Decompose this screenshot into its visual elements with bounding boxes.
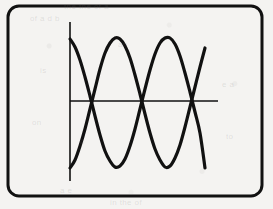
figure-background	[0, 0, 273, 209]
figure-container: the the of aof a d banise aontoa ein the…	[0, 0, 273, 209]
waveform-figure	[0, 0, 273, 209]
